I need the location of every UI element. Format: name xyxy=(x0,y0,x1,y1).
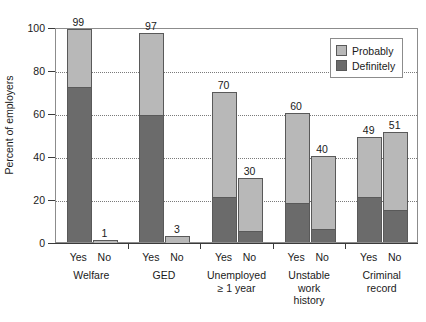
bar xyxy=(311,156,336,242)
legend-swatch-probably xyxy=(336,45,347,56)
x-axis-category-label: No xyxy=(388,251,401,263)
bar-segment-definitely xyxy=(140,115,163,242)
bar-segment-probably xyxy=(213,93,236,198)
x-axis-category-label: Yes xyxy=(360,251,377,263)
bar-segment-definitely xyxy=(358,197,381,242)
x-axis-group-label-line: record xyxy=(362,282,401,295)
y-axis-tick-label: 60 xyxy=(14,108,45,120)
x-axis-separator-tick xyxy=(345,243,346,249)
bar-segment-probably xyxy=(68,30,91,88)
bar xyxy=(165,236,190,242)
bar-segment-definitely xyxy=(68,87,91,242)
bar-value-label: 51 xyxy=(389,119,401,131)
bar-segment-probably xyxy=(384,133,407,210)
chart-legend: Probably Definitely xyxy=(330,38,403,78)
y-axis-tick-label: 0 xyxy=(14,237,45,249)
x-axis-separator-tick xyxy=(273,243,274,249)
bar-chart: Percent of employers 020406080100 991973… xyxy=(0,0,426,322)
x-axis-group-label-line: history xyxy=(288,294,329,307)
bar-value-label: 70 xyxy=(218,79,230,91)
x-axis-group-label: GED xyxy=(153,269,176,282)
y-axis-title: Percent of employers xyxy=(0,0,18,250)
x-axis-group-label-line: Welfare xyxy=(73,269,109,282)
bar-value-label: 1 xyxy=(101,227,107,239)
bar-segment-definitely xyxy=(213,197,236,242)
y-axis-tick xyxy=(48,243,55,244)
x-axis-group-label-line: Criminal xyxy=(362,269,401,282)
x-axis-group-label: Unstableworkhistory xyxy=(288,269,329,307)
bar xyxy=(93,240,118,242)
bar xyxy=(212,92,237,243)
x-axis-group-label-line: GED xyxy=(153,269,176,282)
x-axis-category-label: Yes xyxy=(142,251,159,263)
bar-value-label: 3 xyxy=(174,223,180,235)
bar-segment-definitely xyxy=(286,203,309,242)
bar xyxy=(357,137,382,242)
bar xyxy=(383,132,408,242)
bar-segment-probably xyxy=(358,138,381,198)
x-axis-separator-tick xyxy=(128,243,129,249)
bar-value-label: 60 xyxy=(290,100,302,112)
x-axis-category-label: No xyxy=(98,251,111,263)
y-axis-tick xyxy=(48,28,55,29)
legend-item-probably: Probably xyxy=(336,43,395,58)
x-axis-group-label: Criminalrecord xyxy=(362,269,401,294)
bar-segment-definitely xyxy=(384,210,407,242)
x-axis-category-label: Yes xyxy=(215,251,232,263)
legend-label-probably: Probably xyxy=(352,45,393,57)
x-axis-group-label: Welfare xyxy=(73,269,109,282)
legend-item-definitely: Definitely xyxy=(336,58,395,73)
bar-value-label: 30 xyxy=(244,165,256,177)
bar-segment-probably xyxy=(140,34,163,116)
x-axis-group-label: Unemployed≥ 1 year xyxy=(207,269,266,294)
bar-segment-definitely xyxy=(239,231,262,242)
y-axis-tick-label: 40 xyxy=(14,151,45,163)
bar-value-label: 40 xyxy=(316,143,328,155)
y-axis-tick xyxy=(48,114,55,115)
bar-value-label: 49 xyxy=(363,124,375,136)
bar-value-label: 99 xyxy=(72,16,84,28)
bar-segment-definitely xyxy=(312,229,335,242)
y-axis-tick-label: 80 xyxy=(14,65,45,77)
x-axis-line xyxy=(55,243,418,244)
x-axis-category-label: Yes xyxy=(288,251,305,263)
bar xyxy=(139,33,164,242)
y-axis-tick xyxy=(48,157,55,158)
x-axis-group-label-line: ≥ 1 year xyxy=(207,282,266,295)
x-axis-group-label-line: Unemployed xyxy=(207,269,266,282)
legend-label-definitely: Definitely xyxy=(352,60,395,72)
bar-segment-probably xyxy=(286,114,309,204)
bar xyxy=(285,113,310,242)
bar-value-label: 97 xyxy=(145,20,157,32)
y-axis-tick-label: 100 xyxy=(14,22,45,34)
bar-segment-probably xyxy=(239,179,262,233)
x-axis-category-label: Yes xyxy=(70,251,87,263)
y-axis-tick-label: 20 xyxy=(14,194,45,206)
y-axis-tick xyxy=(48,200,55,201)
bar xyxy=(238,178,263,243)
legend-swatch-definitely xyxy=(336,60,347,71)
x-axis-separator-tick xyxy=(200,243,201,249)
y-axis-tick xyxy=(48,71,55,72)
bar xyxy=(67,29,92,242)
x-axis-category-label: No xyxy=(170,251,183,263)
x-axis-group-label-line: work xyxy=(288,282,329,295)
x-axis-category-label: No xyxy=(243,251,256,263)
x-axis-group-label-line: Unstable xyxy=(288,269,329,282)
x-axis-category-label: No xyxy=(315,251,328,263)
bar-segment-probably xyxy=(312,157,335,230)
